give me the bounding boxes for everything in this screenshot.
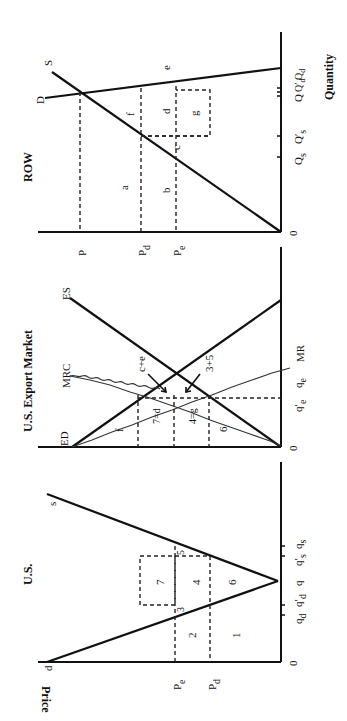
row-Qd-label: Qd	[293, 69, 307, 80]
us-title: U.S.	[21, 564, 35, 585]
row-panel: ROW Quantity 0 D S e a b c d f g P Pd Pe…	[21, 32, 336, 256]
svg-text:Qd: Qd	[293, 69, 307, 80]
export-mr-label: MR	[294, 344, 306, 362]
us-d-label: d	[42, 665, 54, 671]
svg-text:Qs: Qs	[292, 153, 308, 165]
three-panel-diagram: ROW Quantity 0 D S e a b c d f g P Pd Pe…	[0, 0, 347, 721]
export-es-label: ES	[60, 287, 72, 300]
row-supply-curve	[52, 72, 281, 232]
export-ce-label: c+e	[135, 356, 147, 372]
svg-text:Pe: Pe	[171, 245, 187, 256]
us-area-2: 2	[186, 633, 198, 639]
svg-text:q′e: q′e	[292, 399, 308, 412]
row-c-label: c	[170, 145, 182, 150]
us-s-label: s	[46, 502, 58, 506]
us-pd-label: Pd	[206, 679, 222, 690]
svg-text:q′s: q′s	[292, 554, 308, 566]
us-area-6: 6	[226, 579, 238, 585]
us-price-label: Price	[39, 686, 53, 713]
row-P-label: P	[76, 250, 88, 256]
svg-text:qe: qe	[292, 378, 308, 389]
svg-text:qd: qd	[292, 614, 308, 625]
row-b-label: b	[160, 187, 172, 193]
export-zero: 0	[287, 445, 299, 451]
us-qs-label: qs	[292, 540, 308, 550]
us-demand-curve	[47, 581, 278, 662]
us-qdp-label: q′d	[292, 594, 308, 607]
export-35-label: 3+5	[203, 354, 215, 372]
export-es-curve	[70, 298, 281, 447]
export-qep-label: q′e	[292, 399, 308, 412]
row-e-label: e	[160, 65, 172, 70]
export-mrc-line	[70, 376, 281, 446]
export-7d-label: 7=d	[151, 408, 162, 424]
export-4g-label: 4=g	[187, 408, 198, 424]
export-6-label: 6	[217, 426, 229, 432]
us-area-5: 5	[175, 550, 186, 555]
row-D-label: D	[34, 96, 46, 104]
row-Pd-label: Pd	[136, 245, 152, 256]
row-Qsp-label: Q′s	[292, 130, 308, 144]
export-title: U.S. Export Market	[21, 330, 35, 432]
row-title: ROW	[21, 152, 35, 182]
us-area-7: 7	[154, 579, 166, 585]
svg-text:Pd: Pd	[206, 679, 222, 690]
row-f-label: f	[124, 112, 136, 116]
us-zero: 0	[287, 660, 299, 666]
us-pe-label: Pe	[171, 679, 187, 690]
svg-text:Pe: Pe	[171, 679, 187, 690]
us-qsp-label: q′s	[292, 554, 308, 566]
export-mrc-label: MRC	[60, 364, 72, 388]
row-d-label: d	[160, 108, 172, 114]
us-panel: U.S. Price 0 d s 1 2 3 4 5 6 7 Pe Pd qd …	[21, 462, 308, 713]
row-zero: 0	[287, 230, 299, 236]
us-qd-label: qd	[292, 614, 308, 625]
us-supply-curve	[47, 494, 278, 581]
row-S-label: S	[42, 60, 54, 66]
svg-text:Pd: Pd	[136, 245, 152, 256]
export-f-label: f	[113, 428, 125, 432]
row-a-label: a	[118, 185, 130, 190]
row-g-label: g	[188, 110, 200, 116]
export-ed-label: ED	[58, 431, 70, 446]
export-qe-label: qe	[292, 378, 308, 389]
export-panel: U.S. Export Market 0 ED ES MRC MR c+e 3+…	[21, 247, 308, 451]
us-area-3: 3	[175, 607, 186, 612]
row-Q-label: Q	[292, 94, 304, 102]
us-area-1: 1	[230, 633, 242, 639]
svg-text:Q′s: Q′s	[292, 130, 308, 144]
us-area-4: 4	[190, 579, 202, 585]
row-Pe-label: Pe	[171, 245, 187, 256]
row-quantity-label: Quantity	[322, 54, 336, 100]
us-q-label: q	[292, 580, 304, 586]
svg-text:qs: qs	[292, 540, 308, 550]
row-Qs-label: Qs	[292, 153, 308, 165]
svg-text:q′d: q′d	[292, 594, 308, 607]
